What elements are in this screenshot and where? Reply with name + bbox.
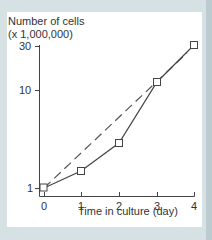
marker-day-0 bbox=[40, 184, 47, 191]
marker-day-1 bbox=[78, 168, 85, 175]
marker-day-3 bbox=[154, 79, 161, 86]
marker-day-4 bbox=[191, 42, 198, 49]
data-markers bbox=[40, 42, 198, 192]
plot-area bbox=[0, 0, 212, 240]
marker-day-2 bbox=[116, 140, 123, 147]
